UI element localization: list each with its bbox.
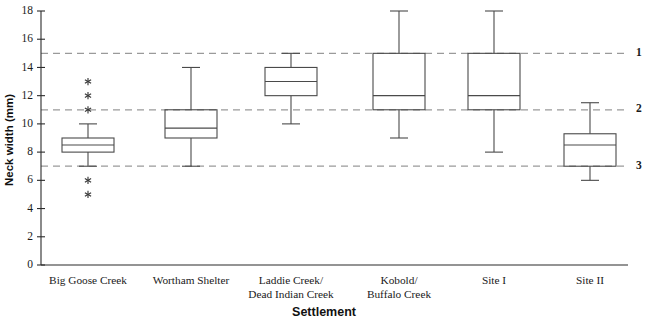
iqr-box bbox=[564, 134, 616, 166]
category-label-6: Site II bbox=[576, 274, 604, 286]
y-tick-labels-group: 024681012141618 bbox=[22, 4, 34, 270]
box-plot-chart: 024681012141618 123 Big Goose CreekWorth… bbox=[0, 0, 649, 325]
y-tick-label-12: 12 bbox=[22, 89, 34, 101]
reference-line-label-2: 2 bbox=[636, 102, 642, 114]
box-plot-5 bbox=[468, 11, 520, 152]
y-tick-label-16: 16 bbox=[22, 32, 34, 44]
y-tick-label-6: 6 bbox=[27, 173, 33, 185]
box-plot-2 bbox=[165, 67, 217, 166]
y-tick-label-4: 4 bbox=[27, 202, 33, 214]
category-label-5: Site I bbox=[482, 274, 506, 286]
outlier-asterisk-marker bbox=[85, 191, 91, 198]
category-label-3: Laddie Creek/ bbox=[259, 274, 324, 286]
category-label-4: Buffalo Creek bbox=[367, 288, 431, 300]
box-plots-group bbox=[62, 11, 616, 180]
category-label-4: Kobold/ bbox=[380, 274, 418, 286]
y-tick-label-18: 18 bbox=[22, 4, 34, 16]
y-tick-label-10: 10 bbox=[22, 117, 34, 129]
outlier-asterisk-marker bbox=[85, 177, 91, 184]
reference-line-label-1: 1 bbox=[636, 46, 642, 58]
chart-canvas: 024681012141618 123 Big Goose CreekWorth… bbox=[0, 0, 649, 325]
iqr-box bbox=[165, 110, 217, 138]
axes-group bbox=[41, 11, 628, 265]
y-tick-label-2: 2 bbox=[27, 230, 33, 242]
reference-line-label-3: 3 bbox=[636, 159, 642, 171]
box-plot-3 bbox=[265, 53, 317, 124]
outlier-asterisk-marker bbox=[85, 92, 91, 99]
y-axis-title: Neck width (mm) bbox=[3, 94, 15, 186]
iqr-box bbox=[468, 53, 520, 109]
x-axis-title: Settlement bbox=[292, 305, 357, 319]
box-plot-4 bbox=[373, 11, 425, 138]
y-tick-label-14: 14 bbox=[22, 61, 34, 73]
reference-lines-group bbox=[41, 53, 628, 166]
iqr-box bbox=[373, 53, 425, 109]
category-label-1: Big Goose Creek bbox=[49, 274, 127, 286]
y-tick-label-0: 0 bbox=[27, 258, 33, 270]
box-plot-6 bbox=[564, 103, 616, 181]
category-label-2: Wortham Shelter bbox=[153, 274, 230, 286]
reference-line-labels-group: 123 bbox=[636, 46, 642, 171]
y-tick-label-8: 8 bbox=[27, 145, 33, 157]
box-plot-1 bbox=[62, 124, 114, 166]
category-labels-group: Big Goose CreekWortham ShelterLaddie Cre… bbox=[49, 274, 604, 300]
outlier-asterisk-marker bbox=[85, 78, 91, 85]
category-label-3: Dead Indian Creek bbox=[248, 288, 334, 300]
